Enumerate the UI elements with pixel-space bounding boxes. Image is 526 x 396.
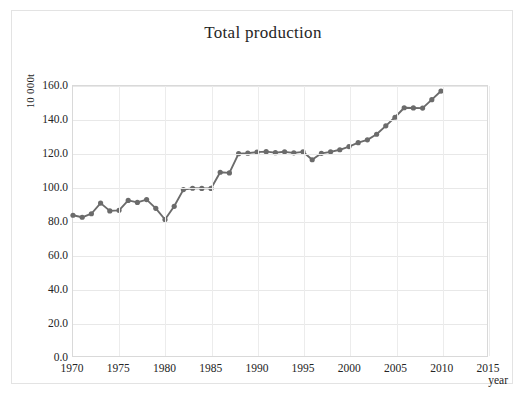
data-point-marker: 1971: 82.2 [80,215,85,220]
gridline-vertical [119,86,120,356]
gridline-horizontal [73,188,487,189]
y-axis-tick-label: 20.0 [22,317,68,329]
x-axis-caption: year [488,374,508,386]
data-point-marker: 1979: 87.5 [153,206,158,211]
data-point-marker: 1986: 108.9 [218,170,223,175]
x-axis-tick-label: 2010 [417,362,467,374]
gridline-horizontal [73,154,487,155]
chart-screenshot: Total production 10 000t 0.020.040.060.0… [0,0,526,396]
gridline-vertical [397,86,398,356]
data-point-marker: 1987: 108.5 [227,170,232,175]
gridline-vertical [165,86,166,356]
data-point-marker: 2009: 151.9 [429,97,434,102]
x-axis-tick-label: 1990 [232,362,282,374]
plot-area: 1970: 83.41971: 82.21972: 84.31973: 90.6… [72,85,488,357]
data-point-marker: 1978: 92.7 [144,197,149,202]
y-axis-tick-label: 60.0 [22,249,68,261]
y-axis-tick-label: 140.0 [22,113,68,125]
gridline-horizontal [73,86,487,87]
gridline-vertical [350,86,351,356]
data-point-marker: 1974: 86 [107,208,112,213]
x-axis-tick-labels: 1970197519801985199019952000200520102015 [72,362,488,380]
data-point-marker: 2001: 126.4 [356,140,361,145]
data-point-marker: 1970: 83.4 [70,213,75,218]
x-axis-tick-label: 2005 [371,362,421,374]
x-axis-tick-label: 2000 [324,362,374,374]
data-point-marker: 1972: 84.3 [89,211,94,216]
y-axis-tick-label: 40.0 [22,283,68,295]
gridline-vertical [304,86,305,356]
y-axis-tick-label: 80.0 [22,215,68,227]
data-point-marker: 2006: 147.1 [402,105,407,110]
gridline-horizontal [73,324,487,325]
x-axis-tick-label: 2015 [463,362,513,374]
y-axis-tick-label: 100.0 [22,181,68,193]
gridline-vertical [258,86,259,356]
data-point-marker: 2007: 147 [411,105,416,110]
gridline-horizontal [73,256,487,257]
gridline-vertical [489,86,490,356]
x-axis-tick-label: 1970 [47,362,97,374]
data-point-marker: 1973: 90.6 [98,201,103,206]
data-point-marker: 2004: 136.4 [383,123,388,128]
x-axis-tick-label: 1980 [139,362,189,374]
data-point-marker: 1976: 92.2 [126,198,131,203]
y-axis-tick-labels: 0.020.040.060.080.0100.0120.0140.0160.0 [20,85,68,357]
data-point-marker: 2003: 131.4 [374,132,379,137]
data-point-marker: 2008: 146.9 [420,106,425,111]
gridline-horizontal [73,222,487,223]
gridline-horizontal [73,290,487,291]
gridline-horizontal [73,120,487,121]
data-point-marker: 2002: 128.1 [365,137,370,142]
y-axis-tick-label: 160.0 [22,79,68,91]
data-point-marker: 1996: 116.3 [310,157,315,162]
y-axis-tick-label: 120.0 [22,147,68,159]
data-point-marker: 1999: 122.2 [337,147,342,152]
x-axis-tick-label: 1995 [278,362,328,374]
chart-title: Total production [0,23,526,43]
data-point-marker: 1977: 91 [135,200,140,205]
x-axis-tick-label: 1975 [93,362,143,374]
gridline-vertical [443,86,444,356]
gridline-vertical [212,86,213,356]
x-axis-tick-label: 1985 [186,362,236,374]
data-point-marker: 1981: 88.7 [172,204,177,209]
series-line-total-production: 1970: 83.41971: 82.21972: 84.31973: 90.6… [73,86,487,356]
